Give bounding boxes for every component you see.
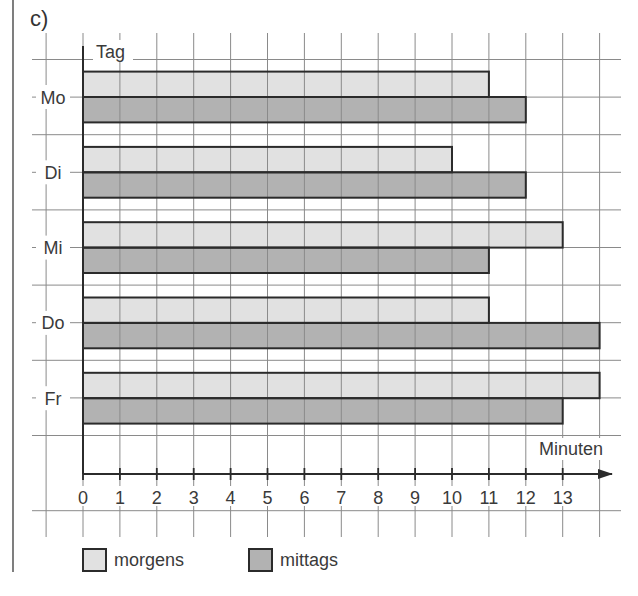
chart-canvas: 012345678910111213MoDiMiDoFrTagMinuten m… [0,0,638,596]
x-tick-label: 2 [152,488,162,508]
x-tick-label: 13 [553,488,573,508]
bar-mi-morgens [83,222,563,247]
x-tick-label: 6 [299,488,309,508]
x-tick-label: 8 [373,488,383,508]
category-label-mi: Mi [44,238,63,258]
y-axis-title: Tag [96,42,125,62]
x-tick-label: 12 [516,488,536,508]
x-axis-arrow-icon [598,469,613,479]
category-label-fr: Fr [45,389,62,409]
category-label-do: Do [41,313,64,333]
bar-fr-mittags [83,398,563,423]
x-tick-label: 11 [480,488,499,508]
bar-mi-mittags [83,248,489,273]
legend-swatch-mittags [249,549,272,571]
x-tick-label: 1 [115,488,125,508]
legend-swatch-morgens [83,549,106,571]
bar-do-morgens [83,298,489,323]
x-tick-label: 3 [189,488,199,508]
x-tick-label: 10 [442,488,462,508]
bar-chart: 012345678910111213MoDiMiDoFrTagMinuten m… [0,0,638,596]
x-axis-title: Minuten [539,439,603,459]
legend: morgensmittags [83,549,338,571]
x-tick-label: 9 [410,488,420,508]
legend-label-mittags: mittags [280,550,338,570]
category-label-mo: Mo [40,88,65,108]
task-label: c) [30,6,48,32]
category-label-di: Di [45,163,62,183]
x-tick-label: 4 [226,488,236,508]
x-tick-label: 5 [262,488,272,508]
bar-mo-morgens [83,72,489,97]
x-tick-label: 7 [336,488,346,508]
legend-label-morgens: morgens [114,550,184,570]
x-tick-label: 0 [78,488,88,508]
